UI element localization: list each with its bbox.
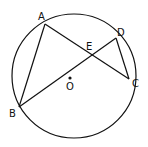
label-e: E (86, 41, 92, 52)
label-a: A (38, 11, 45, 22)
geometry-diagram: A B C D E O (0, 0, 148, 147)
center-point (68, 76, 71, 79)
segment-ab (19, 24, 45, 107)
label-b: B (9, 108, 16, 119)
label-d: D (117, 27, 125, 38)
segment-bd (19, 38, 116, 107)
label-c: C (132, 78, 139, 89)
label-o: O (66, 81, 74, 92)
